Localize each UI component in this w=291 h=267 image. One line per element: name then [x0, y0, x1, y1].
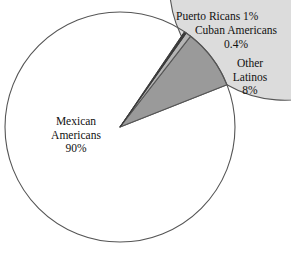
cuban-americans-value-text: 0.4% — [186, 38, 286, 52]
mexican-americans-value-text: 90% — [39, 142, 113, 156]
other-latinos-value-text: 8% — [222, 84, 278, 98]
cuban-americans-name-text: Cuban Americans — [186, 24, 286, 38]
puerto-ricans-text: Puerto Ricans 1% — [176, 10, 258, 24]
slice-label-puerto-ricans: Puerto Ricans 1% — [176, 10, 258, 24]
other-latinos-line2-text: Latinos — [222, 71, 278, 85]
other-latinos-line1-text: Other — [222, 57, 278, 71]
mexican-americans-line2-text: Americans — [39, 129, 113, 143]
mexican-americans-line1-text: Mexican — [39, 115, 113, 129]
slice-label-mexican-americans: Mexican Americans 90% — [37, 112, 115, 160]
slice-label-cuban-americans: Cuban Americans 0.4% — [186, 24, 286, 51]
slice-label-other-latinos: Other Latinos 8% — [222, 57, 278, 98]
pie-chart-figure: Puerto Ricans 1% Cuban Americans 0.4% Ot… — [0, 0, 291, 267]
